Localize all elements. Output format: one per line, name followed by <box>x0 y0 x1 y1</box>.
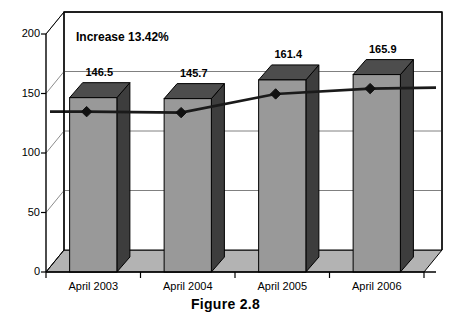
x-axis-category-label: April 2003 <box>48 280 138 292</box>
bar-data-label: 165.9 <box>343 43 423 55</box>
depth-connector <box>46 191 64 213</box>
trend-line-lead-out <box>370 88 436 89</box>
bar-data-label: 161.4 <box>248 48 328 60</box>
bar-front-face <box>259 80 306 272</box>
bar-data-label: 145.7 <box>154 67 234 79</box>
x-axis-category-label: April 2006 <box>332 280 422 292</box>
chart-depth-connectors-group <box>46 12 64 272</box>
x-axis-category-label: April 2004 <box>143 280 233 292</box>
bar-front-face <box>353 75 400 272</box>
depth-connector <box>46 131 64 153</box>
increase-annotation: Increase 13.42% <box>76 30 169 44</box>
bar-side-face <box>211 84 224 272</box>
y-axis-tick-label: 50 <box>2 206 40 218</box>
bar-side-face <box>400 60 413 272</box>
x-axis-category-label: April 2005 <box>237 280 327 292</box>
bar-data-label: 146.5 <box>59 66 139 78</box>
y-axis-tick-label: 200 <box>2 27 40 39</box>
bar-front-face <box>164 99 211 272</box>
bar-side-face <box>306 65 319 272</box>
y-axis-tick-label: 0 <box>2 265 40 277</box>
figure-container: 050100150200April 2003April 2004April 20… <box>0 0 451 315</box>
y-axis-tick-label: 100 <box>2 146 40 158</box>
figure-caption: Figure 2.8 <box>0 292 451 315</box>
bar-front-face <box>70 98 117 272</box>
frame-depth-edge-top <box>46 12 64 34</box>
y-axis-tick-label: 150 <box>2 87 40 99</box>
